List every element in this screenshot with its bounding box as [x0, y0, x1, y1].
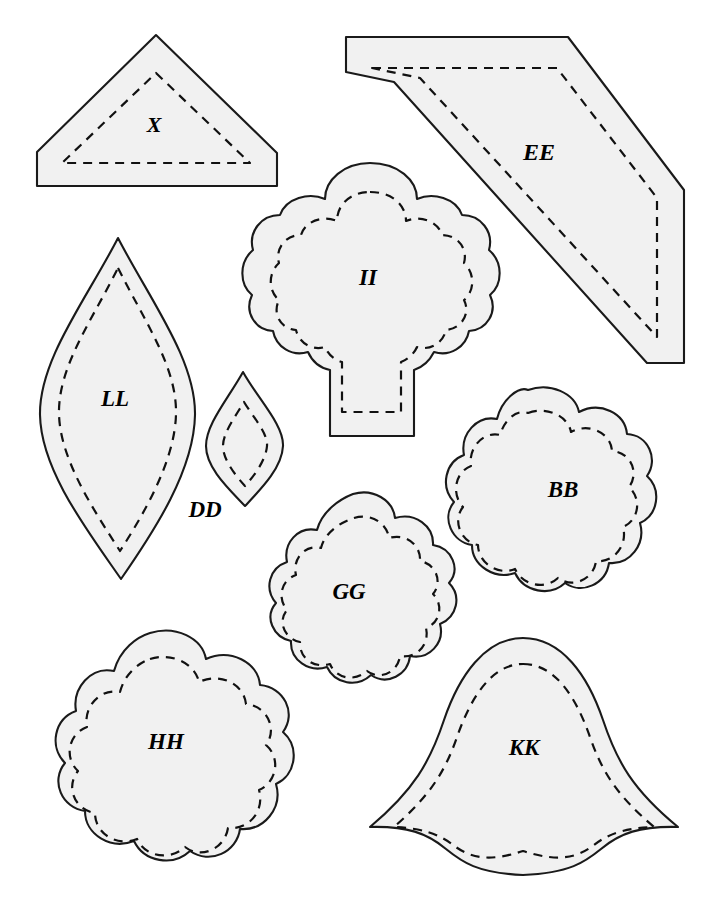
pattern-piece-hh[interactable]: HH — [56, 631, 294, 861]
piece-gg-label: GG — [332, 579, 366, 604]
piece-dd-label: DD — [187, 497, 222, 522]
pattern-sheet: X EE II LL DD BB — [0, 0, 723, 919]
piece-ee-label: EE — [522, 139, 555, 165]
piece-bb-label: BB — [547, 477, 579, 502]
piece-kk-label: KK — [508, 735, 541, 760]
pattern-piece-gg[interactable]: GG — [269, 492, 456, 682]
piece-hh-label: HH — [147, 729, 185, 754]
pattern-piece-bb[interactable]: BB — [446, 387, 656, 591]
piece-x-label: X — [146, 112, 163, 137]
piece-ii-outline — [242, 163, 499, 436]
pattern-piece-ll[interactable]: LL — [40, 238, 195, 579]
pattern-piece-ii[interactable]: II — [242, 163, 499, 436]
pattern-piece-dd[interactable]: DD — [187, 372, 283, 522]
pattern-piece-kk[interactable]: KK — [370, 638, 678, 875]
pattern-sheet-canvas: X EE II LL DD BB — [0, 0, 723, 919]
pattern-piece-x[interactable]: X — [37, 35, 277, 186]
piece-ll-label: LL — [100, 386, 129, 411]
piece-ii-label: II — [358, 265, 378, 290]
